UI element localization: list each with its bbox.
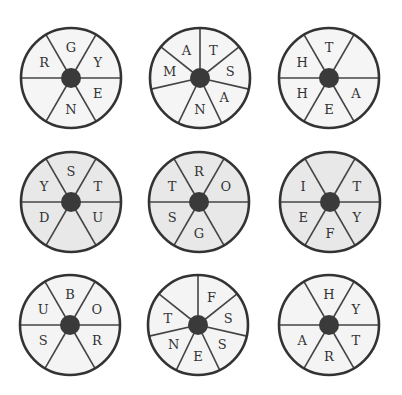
letter-wheel-5: ROGST [149,152,249,252]
wheel-letter: B [65,287,75,302]
wheel-letter: N [168,337,179,352]
wheel-hub [188,315,208,335]
wheel-letter: N [65,102,76,117]
wheel-letter: N [194,102,205,117]
wheel-letter: F [325,226,334,241]
letter-wheel-4: STUDY [21,152,121,252]
wheel-letter: S [67,164,76,179]
wheel-letter: T [209,43,218,58]
wheel-letter: Y [351,302,361,317]
wheel-letter: R [92,333,103,348]
letter-wheel-9: HYTRA [279,275,379,375]
wheel-letter: I [301,179,306,194]
wheel-letter: R [324,349,335,364]
wheel-letter: T [94,179,103,194]
wheel-letter: G [66,40,76,55]
letter-wheel-1: GYENR [21,28,121,128]
wheel-hub [320,192,340,212]
letter-wheel-6: TYFEI [280,152,380,252]
letter-wheel-7: BORSU [20,275,120,375]
wheel-hub [190,68,210,88]
wheel-letter: M [163,64,176,79]
wheel-letter: O [221,179,232,194]
wheel-letter: A [219,90,230,105]
wheel-letter: A [181,43,192,58]
wheel-letter: S [39,333,48,348]
wheel-letter: O [92,302,103,317]
wheel-hub [319,315,339,335]
wheel-letter: H [296,55,307,70]
wheel-letter: H [296,86,307,101]
wheel-hub [61,192,81,212]
wheel-letter: E [93,86,103,101]
wheel-letter: Y [93,55,103,70]
wheel-letter: S [224,311,233,326]
wheel-letter: H [323,287,334,302]
wheel-letter: G [194,226,204,241]
wheel-letter: S [218,337,227,352]
wheel-letter: U [92,210,103,225]
wheel-letter: A [350,86,361,101]
wheel-letter: T [163,311,172,326]
wheel-letter: U [38,302,49,317]
wheel-letter: S [168,210,177,225]
wheel-letter: E [324,102,334,117]
wheel-letter: T [352,333,361,348]
wheel-letter: T [168,179,177,194]
wheel-letter: F [207,290,216,305]
wheel-letter: Y [39,179,49,194]
letter-wheel-2: TSANMA [150,28,250,128]
wheel-letter: Y [352,210,362,225]
wheel-letter: R [39,55,50,70]
wheel-letter: D [39,210,49,225]
wheel-letter: T [353,179,362,194]
wheel-hub [319,68,339,88]
wheel-letter: S [226,64,235,79]
wheel-letter: E [193,349,203,364]
letter-wheel-3: TAEHH [279,28,379,128]
wheel-letter: E [298,210,308,225]
word-wheels-puzzle: GYENRTSANMATAEHHSTUDYROGSTTYFEIBORSUFSSE… [0,0,402,395]
wheel-hub [60,315,80,335]
wheel-hub [61,68,81,88]
wheel-hub [189,192,209,212]
wheel-letter: R [194,164,205,179]
letter-wheel-8: FSSENT [148,275,248,375]
wheel-letter: A [296,333,307,348]
wheel-letter: T [325,40,334,55]
